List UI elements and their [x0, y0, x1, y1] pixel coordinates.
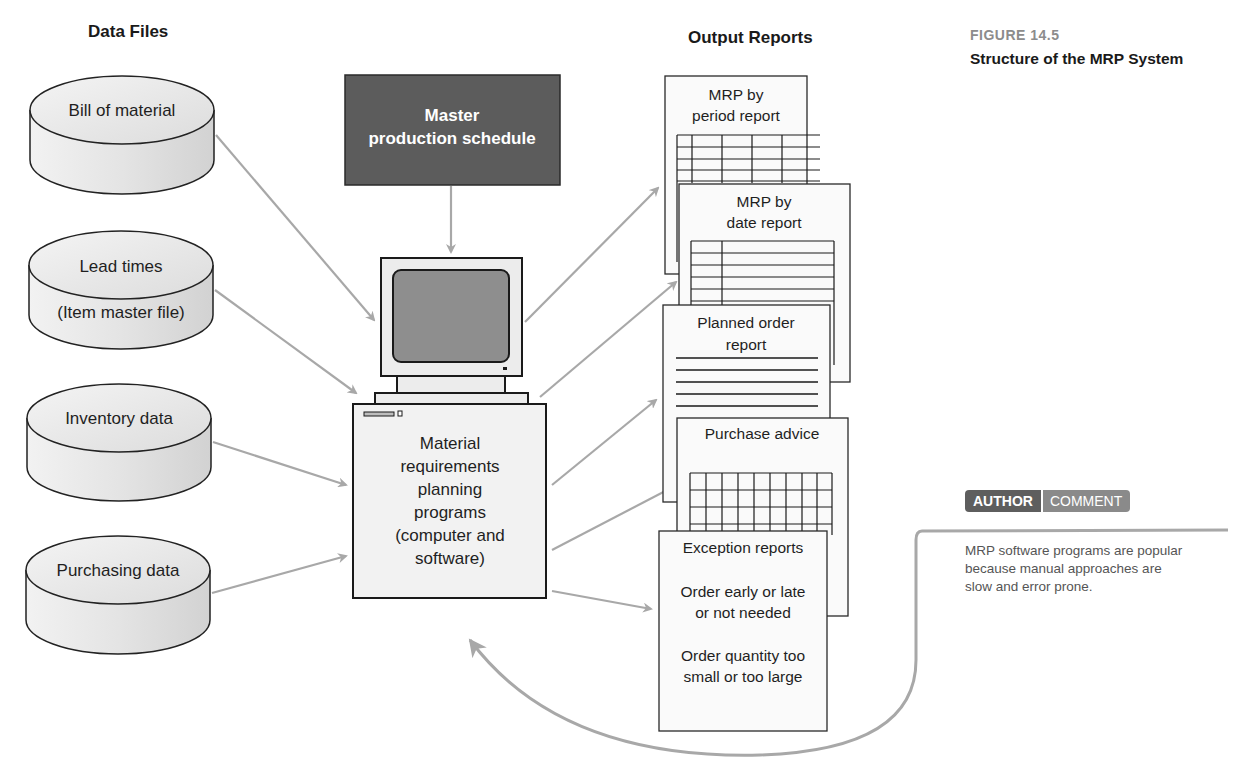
svg-text:Master: Master	[425, 106, 480, 125]
data-file-label: Purchasing data	[57, 561, 180, 580]
arrow-icon	[552, 591, 651, 609]
arrow-icon	[525, 188, 658, 322]
svg-text:software): software)	[415, 549, 485, 568]
data-file-label: Inventory data	[65, 409, 173, 428]
svg-text:MRP by: MRP by	[737, 193, 792, 210]
output-arrows	[525, 188, 676, 609]
author-comment-tag: AUTHOR COMMENT	[965, 490, 1130, 512]
svg-text:production schedule: production schedule	[368, 129, 535, 148]
author-comment-text: MRP software programs are popular becaus…	[965, 542, 1244, 596]
mrp-structure-diagram: Bill of material Lead times (Item master…	[0, 0, 1244, 767]
arrow-icon	[552, 487, 673, 550]
data-file-label: Bill of material	[69, 101, 176, 120]
svg-text:date report: date report	[727, 214, 803, 231]
arrow-icon	[540, 282, 676, 397]
svg-text:(computer and: (computer and	[395, 526, 505, 545]
svg-text:requirements: requirements	[400, 457, 499, 476]
arrow-icon	[552, 400, 656, 485]
svg-text:Planned order: Planned order	[697, 314, 794, 331]
master-production-schedule: Master production schedule	[345, 75, 560, 185]
svg-text:MRP by: MRP by	[709, 86, 764, 103]
svg-text:programs: programs	[414, 503, 486, 522]
svg-text:Purchase advice: Purchase advice	[705, 425, 820, 442]
svg-text:period report: period report	[692, 107, 781, 124]
arrow-icon	[215, 290, 356, 393]
arrow-icon	[212, 556, 346, 593]
report-exception: Exception reports Order early or late or…	[659, 531, 827, 731]
data-file-inventory-data: Inventory data	[27, 384, 211, 501]
author-tag-label: AUTHOR	[965, 490, 1041, 512]
data-file-label: Lead times	[79, 257, 162, 276]
computer-icon: Material requirements planning programs …	[353, 258, 546, 598]
data-file-lead-times: Lead times (Item master file)	[29, 231, 213, 349]
svg-text:Exception reports: Exception reports	[683, 539, 804, 556]
data-file-bill-of-material: Bill of material	[30, 76, 214, 194]
svg-text:planning: planning	[418, 480, 482, 499]
data-file-sublabel: (Item master file)	[57, 303, 185, 322]
svg-text:Material: Material	[420, 434, 480, 453]
svg-text:report: report	[726, 336, 767, 353]
arrow-icon	[213, 442, 346, 485]
data-file-purchasing-data: Purchasing data	[26, 536, 210, 654]
comment-tag-label: COMMENT	[1043, 490, 1130, 512]
svg-text:or not needed: or not needed	[695, 604, 791, 621]
svg-text:small or too large: small or too large	[684, 668, 803, 685]
svg-text:Order early or late: Order early or late	[681, 583, 806, 600]
svg-text:Order quantity too: Order quantity too	[681, 647, 805, 664]
